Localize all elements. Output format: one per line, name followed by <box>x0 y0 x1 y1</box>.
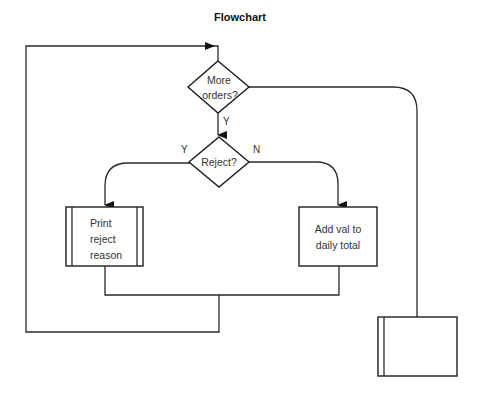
edge-label-more-yes: Y <box>223 116 230 127</box>
process-label-line3: reason <box>90 249 122 261</box>
reject-no-arrow <box>249 162 338 205</box>
process-label-line1: Add val to <box>315 223 362 235</box>
loop-entry-connector <box>214 46 218 61</box>
decision-reject[interactable]: Reject? <box>189 137 249 187</box>
merge-connector <box>105 266 339 295</box>
process-label-line2: reject <box>90 233 116 245</box>
decision-label-line2: orders? <box>202 89 238 101</box>
no-more-orders-connector <box>249 87 417 317</box>
decision-more-orders[interactable]: More orders? <box>188 61 249 113</box>
reject-yes-arrow <box>105 163 190 205</box>
process-box <box>299 207 377 266</box>
edge-label-reject-no: N <box>253 144 260 155</box>
decision-label-line1: More <box>207 74 231 86</box>
process-end-box[interactable] <box>378 317 457 376</box>
process-print-reject-reason[interactable]: Print reject reason <box>66 207 143 266</box>
process-add-val[interactable]: Add val to daily total <box>299 207 377 266</box>
process-box <box>378 317 457 376</box>
decision-diamond <box>188 61 249 113</box>
decision-label: Reject? <box>201 156 237 168</box>
edge-label-reject-yes: Y <box>181 144 188 155</box>
diagram-title: Flowchart <box>214 11 266 23</box>
flowchart-canvas: Flowchart Y Y N More orders? Reject? Pri… <box>0 0 480 396</box>
process-label-line2: daily total <box>316 239 360 251</box>
process-label-line1: Print <box>90 217 112 229</box>
